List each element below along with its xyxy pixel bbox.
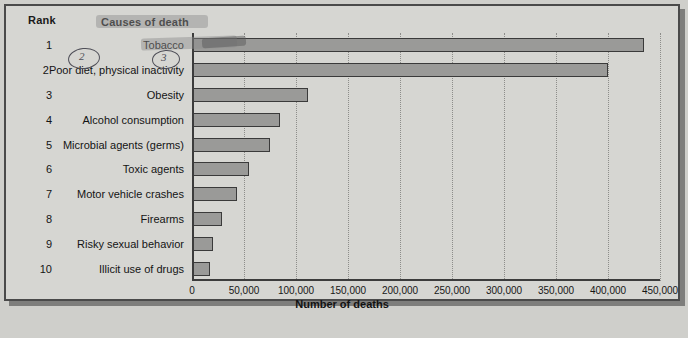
rank-value: 2: [6, 64, 49, 76]
list-item: 3 Obesity: [6, 83, 192, 108]
bar: [192, 237, 213, 251]
bar-row: [192, 207, 222, 232]
list-item: 1 Tobacco: [6, 33, 192, 58]
rank-value: 9: [6, 238, 52, 250]
plot-area: [192, 33, 660, 281]
x-tick-label: 0: [189, 285, 195, 296]
x-tick-label: 350,000: [538, 285, 574, 296]
bar-row: [192, 182, 237, 207]
category-label: Risky sexual behavior: [52, 238, 192, 250]
figure-panel: Rank Causes of death 1 Tobacco 2 Poor di…: [4, 4, 680, 301]
list-item: 7 Motor vehicle crashes: [6, 182, 192, 207]
list-item: 8 Firearms: [6, 207, 192, 232]
x-axis-tick-labels: 050,000100,000150,000200,000250,000300,0…: [192, 281, 660, 299]
x-tick-label: 450,000: [642, 285, 678, 296]
rank-value: 6: [6, 163, 52, 175]
bar: [192, 162, 249, 176]
category-label: Obesity: [52, 89, 192, 101]
x-tick-label: 100,000: [278, 285, 314, 296]
x-tick-label: 400,000: [590, 285, 626, 296]
category-label: Microbial agents (germs): [52, 139, 192, 151]
list-item: 6 Toxic agents: [6, 157, 192, 182]
category-label: Illicit use of drugs: [52, 263, 192, 275]
rank-value: 10: [6, 263, 52, 275]
bar-row: [192, 157, 249, 182]
category-label: Poor diet, physical inactivity: [49, 64, 192, 76]
bar: [192, 63, 608, 77]
rank-value: 1: [6, 39, 52, 51]
bar-row: [192, 132, 270, 157]
rank-value: 7: [6, 188, 52, 200]
bar: [192, 212, 222, 226]
rank-value: 8: [6, 213, 52, 225]
x-tick-label: 300,000: [486, 285, 522, 296]
rank-value: 4: [6, 114, 52, 126]
rank-value: 3: [6, 89, 52, 101]
bar-row: [192, 33, 644, 58]
bar-row: [192, 58, 608, 83]
bar: [192, 113, 280, 127]
bar-row: [192, 107, 280, 132]
bar: [192, 138, 270, 152]
list-item: 4 Alcohol consumption: [6, 107, 192, 132]
list-item: 10 Illicit use of drugs: [6, 256, 192, 281]
category-label: Motor vehicle crashes: [52, 188, 192, 200]
y-axis-line: [192, 33, 194, 281]
rank-column-header: Rank: [28, 14, 56, 26]
category-label-column: 1 Tobacco 2 Poor diet, physical inactivi…: [6, 33, 192, 281]
bar-row: [192, 231, 213, 256]
x-tick-label: 50,000: [229, 285, 260, 296]
bar: [192, 38, 644, 52]
bar-series: [192, 33, 660, 281]
rank-value: 5: [6, 139, 52, 151]
x-tick-label: 200,000: [382, 285, 418, 296]
x-tick-label: 150,000: [330, 285, 366, 296]
bar-row: [192, 256, 210, 281]
bar: [192, 187, 237, 201]
bar-row: [192, 83, 308, 108]
list-item: 5 Microbial agents (germs): [6, 132, 192, 157]
causes-column-header: Causes of death: [101, 16, 189, 28]
list-item: 2 Poor diet, physical inactivity: [6, 58, 192, 83]
category-label: Toxic agents: [52, 163, 192, 175]
category-label: Tobacco: [52, 39, 192, 51]
gridline: [660, 33, 661, 281]
bar: [192, 262, 210, 276]
x-tick-label: 250,000: [434, 285, 470, 296]
category-label: Alcohol consumption: [52, 114, 192, 126]
list-item: 9 Risky sexual behavior: [6, 231, 192, 256]
x-axis-title: Number of deaths: [6, 298, 678, 310]
category-label: Firearms: [52, 213, 192, 225]
bar: [192, 88, 308, 102]
